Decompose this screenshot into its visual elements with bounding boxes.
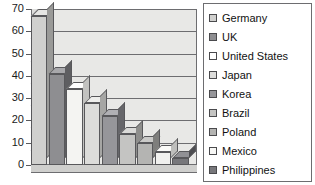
legend-swatch-icon bbox=[209, 52, 217, 60]
bar-front-face bbox=[49, 74, 65, 165]
legend-swatch-icon bbox=[209, 33, 217, 41]
y-axis-tick-label: 60 bbox=[12, 25, 24, 36]
bar-front-face bbox=[66, 89, 82, 165]
legend-item-korea[interactable]: Korea bbox=[209, 84, 309, 103]
legend-item-label: Japan bbox=[222, 69, 252, 81]
legend-item-label: Korea bbox=[222, 88, 251, 100]
legend-item-japan[interactable]: Japan bbox=[209, 65, 309, 84]
bar-chart: 706050403020100 GermanyUKUnited StatesJa… bbox=[0, 0, 315, 185]
legend-item-label: Germany bbox=[222, 12, 267, 24]
legend-item-united-states[interactable]: United States bbox=[209, 46, 309, 65]
legend-item-label: Mexico bbox=[222, 145, 257, 157]
bar-front-face bbox=[102, 116, 118, 165]
bar-front-face bbox=[155, 152, 171, 165]
legend-item-uk[interactable]: UK bbox=[209, 27, 309, 46]
legend-list: GermanyUKUnited StatesJapanKoreaBrazilPo… bbox=[209, 8, 309, 179]
bar-front-face bbox=[137, 143, 153, 165]
legend-item-label: Poland bbox=[222, 126, 256, 138]
legend-swatch-icon bbox=[209, 71, 217, 79]
legend-item-brazil[interactable]: Brazil bbox=[209, 103, 309, 122]
legend-item-poland[interactable]: Poland bbox=[209, 122, 309, 141]
bar-front-face bbox=[119, 134, 135, 165]
bar-front-face bbox=[31, 16, 47, 165]
y-axis-tick-label: 20 bbox=[12, 114, 24, 125]
legend-item-germany[interactable]: Germany bbox=[209, 8, 309, 27]
bars-layer bbox=[31, 9, 197, 173]
legend-swatch-icon bbox=[209, 14, 217, 22]
legend-item-mexico[interactable]: Mexico bbox=[209, 141, 309, 160]
legend-item-label: Philippines bbox=[222, 164, 275, 176]
y-axis-tick-label: 40 bbox=[12, 70, 24, 81]
y-axis-tick-label: 70 bbox=[12, 3, 24, 14]
y-axis-tick-label: 10 bbox=[12, 137, 24, 148]
legend-swatch-icon bbox=[209, 147, 217, 155]
bar-philippines[interactable] bbox=[172, 151, 195, 165]
legend: GermanyUKUnited StatesJapanKoreaBrazilPo… bbox=[203, 3, 312, 182]
legend-swatch-icon bbox=[209, 166, 217, 174]
bar-front-face bbox=[84, 103, 100, 165]
y-axis: 706050403020100 bbox=[0, 0, 26, 185]
legend-item-label: United States bbox=[222, 50, 288, 62]
y-axis-tick-label: 30 bbox=[12, 92, 24, 103]
legend-swatch-icon bbox=[209, 90, 217, 98]
legend-item-label: Brazil bbox=[222, 107, 250, 119]
plot-area: 706050403020100 bbox=[0, 0, 200, 185]
bar-front-face bbox=[172, 158, 188, 165]
y-axis-tick-label: 0 bbox=[18, 159, 24, 170]
legend-swatch-icon bbox=[209, 128, 217, 136]
bar-side-face bbox=[189, 144, 196, 158]
legend-item-label: UK bbox=[222, 31, 237, 43]
legend-item-philippines[interactable]: Philippines bbox=[209, 160, 309, 179]
y-axis-tick-label: 50 bbox=[12, 48, 24, 59]
legend-swatch-icon bbox=[209, 109, 217, 117]
